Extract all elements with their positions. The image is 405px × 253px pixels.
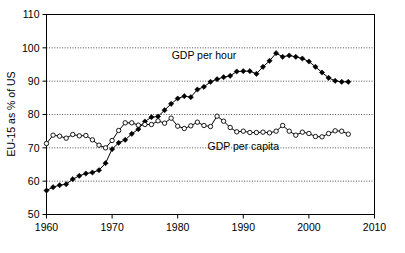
data-point — [156, 119, 160, 123]
data-point — [287, 129, 291, 133]
data-point — [208, 124, 212, 128]
x-tick-label-1970: 1970 — [100, 221, 124, 233]
data-point — [189, 124, 193, 128]
gdp-comparison-line-chart: 5060708090100110 19601970198019902000201… — [0, 0, 405, 253]
data-point — [241, 129, 245, 133]
data-point — [57, 134, 61, 138]
data-point — [176, 124, 180, 128]
series-label-gdp-per-hour: GDP per hour — [172, 49, 237, 61]
data-point — [300, 130, 304, 134]
data-point — [221, 119, 225, 123]
data-point — [64, 136, 68, 140]
data-point — [77, 134, 81, 138]
y-tick-label-110: 110 — [23, 8, 40, 20]
data-point — [195, 120, 199, 124]
y-tick-label-50: 50 — [28, 208, 40, 220]
x-tick-label-1980: 1980 — [166, 221, 190, 233]
x-tick-label-2010: 2010 — [363, 221, 387, 233]
data-point — [320, 135, 324, 139]
data-point — [313, 134, 317, 138]
data-point — [123, 121, 127, 125]
data-point — [326, 131, 330, 135]
y-tick-label-90: 90 — [28, 75, 40, 87]
data-point — [248, 130, 252, 134]
data-point — [116, 128, 120, 132]
data-point — [215, 114, 219, 118]
y-tick-label-100: 100 — [22, 42, 40, 54]
data-point — [182, 126, 186, 130]
y-axis-title: EU-15 as % of US — [5, 71, 17, 156]
data-point — [307, 131, 311, 135]
data-point — [97, 143, 101, 147]
y-tick-label-70: 70 — [28, 142, 40, 154]
x-tick-label-1960: 1960 — [35, 221, 59, 233]
data-point — [110, 138, 114, 142]
data-point — [261, 130, 265, 134]
data-point — [143, 122, 147, 126]
data-point — [202, 123, 206, 127]
data-point — [274, 129, 278, 133]
series-label-gdp-per-capita: GDP per capita — [208, 140, 280, 152]
data-point — [90, 138, 94, 142]
x-tick-label-2000: 2000 — [297, 221, 321, 233]
data-point — [103, 146, 107, 150]
data-point — [340, 129, 344, 133]
data-point — [84, 133, 88, 137]
data-point — [51, 133, 55, 137]
data-point — [254, 130, 258, 134]
data-point — [130, 121, 134, 125]
data-point — [149, 122, 153, 126]
data-point — [44, 141, 48, 145]
data-point — [71, 132, 75, 136]
data-point — [333, 129, 337, 133]
data-point — [294, 133, 298, 137]
data-point — [169, 116, 173, 120]
y-tick-label-80: 80 — [28, 108, 40, 120]
data-point — [346, 132, 350, 136]
data-point — [235, 130, 239, 134]
data-point — [267, 131, 271, 135]
data-point — [162, 121, 166, 125]
data-point — [280, 123, 284, 127]
data-point — [228, 125, 232, 129]
data-point — [136, 123, 140, 127]
x-tick-label-1990: 1990 — [232, 221, 256, 233]
chart-container: 5060708090100110 19601970198019902000201… — [0, 0, 405, 253]
y-tick-label-60: 60 — [28, 175, 40, 187]
